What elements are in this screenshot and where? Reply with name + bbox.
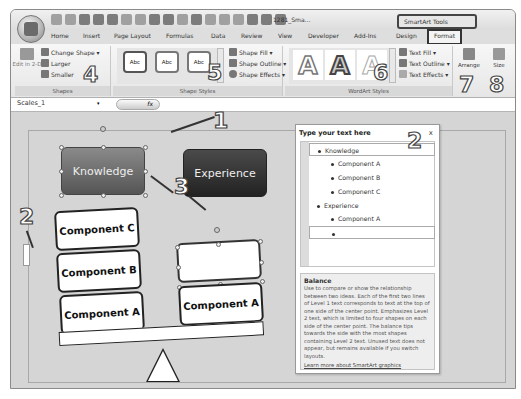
list-item[interactable]: Component A bbox=[309, 157, 435, 170]
tab-add-ins[interactable]: Add-Ins bbox=[354, 32, 376, 39]
shape-right-component-a[interactable]: Component A bbox=[178, 282, 264, 326]
list-item[interactable]: Component A bbox=[309, 212, 435, 225]
paste-icon[interactable] bbox=[163, 14, 174, 25]
text-pane-list[interactable]: Knowledge Component A Component B Compon… bbox=[300, 141, 435, 267]
redo-icon[interactable] bbox=[121, 14, 132, 25]
resize-handle[interactable] bbox=[143, 193, 148, 198]
shape-left-component-c[interactable]: Component C bbox=[54, 207, 140, 251]
callout-4: 4 bbox=[83, 64, 98, 86]
text-effects-icon bbox=[399, 70, 407, 78]
new-icon[interactable] bbox=[51, 14, 62, 25]
shape-styles-group: Abc Abc Abc Shape Fill ▾ Shape Outline ▾… bbox=[113, 46, 283, 96]
layout-description-text: Use to compare or show the relationship … bbox=[304, 285, 431, 360]
shape-fill-button[interactable]: Shape Fill ▾ bbox=[229, 48, 273, 56]
list-item[interactable]: Experience bbox=[309, 199, 435, 212]
text-effects-button[interactable]: Text Effects ▾ bbox=[399, 70, 448, 78]
close-icon[interactable]: x bbox=[429, 129, 433, 137]
bullet-icon bbox=[317, 205, 320, 208]
tab-formulas[interactable]: Formulas bbox=[166, 32, 193, 39]
resize-handle[interactable] bbox=[101, 145, 106, 150]
resize-handle[interactable] bbox=[59, 145, 64, 150]
smaller-icon bbox=[41, 70, 49, 78]
callout-3: 3 bbox=[174, 176, 189, 198]
arrange-icon bbox=[463, 48, 475, 60]
shape-style-1[interactable]: Abc bbox=[123, 51, 147, 73]
learn-more-link[interactable]: Learn more about SmartArt graphics bbox=[304, 362, 431, 368]
refresh-icon[interactable] bbox=[135, 14, 146, 25]
table-icon[interactable] bbox=[261, 14, 272, 25]
tab-design[interactable]: Design bbox=[396, 32, 417, 39]
worksheet-canvas: Knowledge Experience Component C Compone… bbox=[11, 112, 515, 389]
text-fill-button[interactable]: Text Fill ▾ bbox=[399, 48, 436, 56]
change-shape-button[interactable]: Change Shape ▾ bbox=[41, 48, 100, 56]
resize-handle[interactable] bbox=[101, 193, 106, 198]
save-icon[interactable] bbox=[79, 14, 90, 25]
resize-handle[interactable] bbox=[258, 239, 263, 244]
arrange-button[interactable]: Arrange bbox=[457, 48, 481, 68]
chart-icon[interactable] bbox=[191, 14, 202, 25]
paint-bucket-icon bbox=[229, 48, 237, 56]
sort-icon[interactable] bbox=[205, 14, 216, 25]
tab-developer[interactable]: Developer bbox=[308, 32, 339, 39]
wordart-styles-scroll[interactable] bbox=[389, 48, 396, 83]
callout-6: 6 bbox=[373, 62, 388, 84]
shape-knowledge[interactable]: Knowledge bbox=[61, 147, 145, 195]
bullet-icon bbox=[332, 233, 335, 236]
ribbon-tabs: Home Insert Page Layout Formulas Data Re… bbox=[11, 30, 515, 44]
wordart-style-2[interactable]: A bbox=[325, 50, 355, 80]
print-icon[interactable] bbox=[93, 14, 104, 25]
smaller-button[interactable]: Smaller bbox=[41, 70, 74, 78]
resize-handle[interactable] bbox=[259, 260, 264, 265]
office-button[interactable] bbox=[17, 15, 45, 43]
open-icon[interactable] bbox=[65, 14, 76, 25]
list-item-active[interactable] bbox=[309, 226, 435, 239]
edit-in-2d-button[interactable]: Edit in 2-D bbox=[17, 48, 37, 67]
text-pane-title: Type your text here bbox=[299, 129, 371, 137]
tab-data[interactable]: Data bbox=[211, 32, 225, 39]
larger-button[interactable]: Larger bbox=[41, 59, 70, 67]
undo-icon[interactable] bbox=[107, 14, 118, 25]
insert-function-button[interactable]: fx bbox=[116, 99, 160, 110]
function-icon[interactable] bbox=[233, 14, 244, 25]
shape-left-component-b[interactable]: Component B bbox=[56, 249, 142, 293]
copy-icon[interactable] bbox=[149, 14, 160, 25]
resize-handle[interactable] bbox=[175, 245, 180, 250]
layout-name: Balance bbox=[304, 277, 431, 284]
name-box-dropdown-icon[interactable]: ▾ bbox=[97, 100, 100, 106]
3d-icon bbox=[20, 48, 34, 60]
resize-handle[interactable] bbox=[59, 169, 64, 174]
tab-view[interactable]: View bbox=[278, 32, 292, 39]
tab-review[interactable]: Review bbox=[241, 32, 262, 39]
rotation-handle[interactable] bbox=[100, 126, 106, 132]
resize-handle[interactable] bbox=[143, 169, 148, 174]
resize-handle[interactable] bbox=[59, 193, 64, 198]
name-box[interactable]: Scales_1 bbox=[17, 99, 107, 107]
effects-icon bbox=[229, 70, 237, 78]
tab-home[interactable]: Home bbox=[51, 32, 69, 39]
shape-experience[interactable]: Experience bbox=[183, 149, 267, 197]
shape-effects-button[interactable]: Shape Effects ▾ bbox=[229, 70, 285, 78]
format-painter-icon[interactable] bbox=[177, 14, 188, 25]
list-item[interactable]: Component C bbox=[309, 185, 435, 198]
image-icon[interactable] bbox=[247, 14, 258, 25]
rotation-handle[interactable] bbox=[214, 227, 220, 233]
text-outline-icon bbox=[399, 59, 407, 67]
bullet-icon bbox=[331, 177, 334, 180]
filter-icon[interactable] bbox=[219, 14, 230, 25]
size-button[interactable]: Size bbox=[488, 48, 510, 68]
shape-style-2[interactable]: Abc bbox=[155, 51, 179, 73]
tab-format[interactable]: Format bbox=[427, 29, 462, 45]
text-pane-toggle[interactable] bbox=[23, 244, 30, 266]
text-outline-button[interactable]: Text Outline ▾ bbox=[399, 59, 450, 67]
resize-handle[interactable] bbox=[176, 265, 181, 270]
callout-7: 7 bbox=[459, 74, 474, 96]
list-item[interactable]: Component B bbox=[309, 171, 435, 184]
tab-insert[interactable]: Insert bbox=[83, 32, 100, 39]
resize-handle[interactable] bbox=[216, 242, 221, 247]
tab-page-layout[interactable]: Page Layout bbox=[114, 32, 151, 39]
excel-window: 1281_Sma... SmartArt Tools Home Insert P… bbox=[10, 9, 516, 389]
formula-bar: Scales_1 ▾ fx bbox=[11, 98, 515, 112]
shape-outline-button[interactable]: Shape Outline ▾ bbox=[229, 59, 286, 67]
wordart-style-1[interactable]: A bbox=[293, 50, 323, 80]
resize-handle[interactable] bbox=[143, 145, 148, 150]
